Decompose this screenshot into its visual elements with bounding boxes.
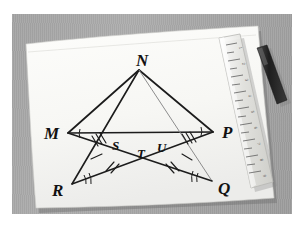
photo-of-geometry-worksheet: N M P R Q S T U [6, 8, 298, 220]
photo-white-border [6, 8, 298, 220]
screenshot-root: N M P R Q S T U [0, 0, 304, 227]
